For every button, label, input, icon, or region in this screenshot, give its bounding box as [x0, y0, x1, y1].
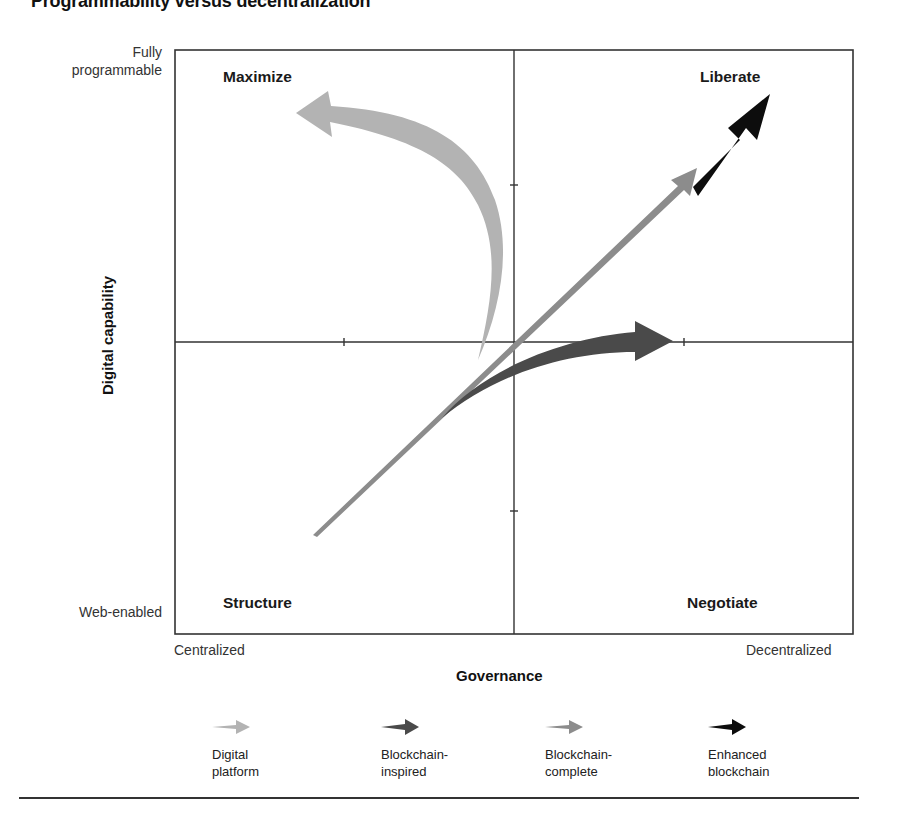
legend-label: Blockchain- inspired [381, 746, 448, 780]
legend-label: Enhanced blockchain [708, 746, 769, 780]
legend-label: Digital platform [212, 746, 259, 780]
legend-label: Blockchain- complete [545, 746, 612, 780]
blockchain-inspired-arrow [442, 321, 673, 418]
arrow-right-icon [381, 719, 421, 735]
enhanced-blockchain-arrow [693, 94, 770, 196]
quadrant-label-maximize: Maximize [223, 68, 292, 86]
digital-platform-arrow [296, 91, 503, 360]
quadrant-label-negotiate: Negotiate [687, 594, 758, 612]
bottom-divider [19, 797, 859, 799]
arrow-right-icon [708, 719, 748, 735]
arrow-right-icon [545, 719, 585, 735]
quadrant-label-structure: Structure [223, 594, 292, 612]
arrow-right-icon [212, 719, 252, 735]
quadrant-diagram [0, 0, 901, 840]
quadrant-label-liberate: Liberate [700, 68, 760, 86]
